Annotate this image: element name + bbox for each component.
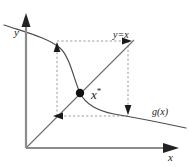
cobweb-dashed-lines: [55, 41, 131, 116]
fixed-point-marker: [76, 89, 84, 97]
axes-group: [22, 13, 180, 153]
fixed-point-diagram: y x y=x g(x) x*: [0, 0, 189, 167]
fixed-point-label: x*: [91, 87, 101, 101]
arrow-down-right-icon: [125, 105, 132, 115]
cobweb-arrowheads: [53, 38, 132, 120]
g-of-x-label: g(x): [152, 107, 168, 117]
x-axis-label: x: [168, 152, 173, 163]
y-axis-label: y: [14, 27, 19, 38]
diagram-canvas: [0, 0, 189, 167]
identity-line-label: y=x: [113, 30, 129, 40]
fixed-point-label-star: *: [97, 86, 102, 96]
arrow-left-bottom-icon: [53, 113, 63, 120]
y-axis-arrowhead: [22, 13, 31, 27]
